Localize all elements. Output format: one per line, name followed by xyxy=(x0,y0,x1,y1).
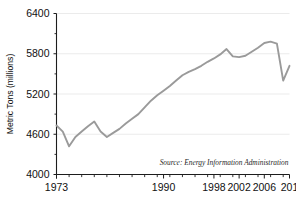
source-note: Source: Energy Information Administratio… xyxy=(160,158,289,167)
y-axis-tick-labels-group: 64005800520046004000 xyxy=(26,7,50,180)
line-chart-figure: 64005800520046004000 1973199019982002200… xyxy=(0,0,296,203)
y-tick-label: 5200 xyxy=(26,88,50,100)
y-tick-label: 4600 xyxy=(26,128,50,140)
y-tick-label: 4000 xyxy=(26,168,50,180)
x-axis-tick-labels-group: 19731990199820022006201 xyxy=(45,181,296,193)
y-tick-label: 5800 xyxy=(26,47,50,59)
x-tick-label: 2006 xyxy=(253,181,277,193)
x-tick-label: 1998 xyxy=(202,181,226,193)
x-tick-label: 201 xyxy=(281,181,296,193)
chart-container: 64005800520046004000 1973199019982002200… xyxy=(0,0,296,203)
y-tick-label: 6400 xyxy=(26,7,50,19)
gridlines-group xyxy=(57,14,290,135)
x-tick-label: 1973 xyxy=(45,181,69,193)
x-tick-label: 2002 xyxy=(227,181,251,193)
x-axis-ticks-group xyxy=(57,175,290,179)
y-axis-title: Metric Tons (millions) xyxy=(5,54,15,135)
x-tick-label: 1990 xyxy=(152,181,176,193)
